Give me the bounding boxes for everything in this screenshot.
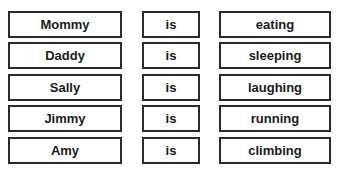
action-card: running (219, 105, 331, 132)
verb-card: is (142, 74, 200, 101)
action-card: laughing (219, 74, 331, 101)
subject-card: Jimmy (8, 105, 122, 132)
action-card: eating (219, 11, 331, 38)
verb-card: is (142, 42, 200, 69)
verb-card: is (142, 137, 200, 164)
subject-card: Daddy (8, 42, 122, 69)
subject-card: Sally (8, 74, 122, 101)
sentence-cards-grid: Mommy is eating Daddy is sleeping Sally … (0, 0, 341, 184)
action-card: sleeping (219, 42, 331, 69)
verb-card: is (142, 105, 200, 132)
subject-card: Amy (8, 137, 122, 164)
verb-card: is (142, 11, 200, 38)
action-card: climbing (219, 137, 331, 164)
subject-card: Mommy (8, 11, 122, 38)
